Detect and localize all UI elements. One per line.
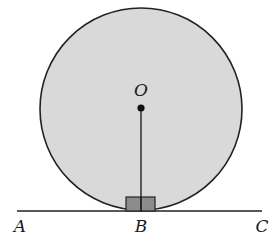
tangent-circle-diagram: O A B C — [0, 0, 277, 236]
label-a: A — [12, 216, 26, 236]
right-angle-marker-right — [141, 197, 155, 211]
label-o: O — [134, 80, 148, 100]
center-point-o — [137, 104, 144, 111]
label-c: C — [255, 216, 268, 236]
right-angle-marker-left — [126, 197, 141, 211]
label-b: B — [134, 216, 148, 236]
